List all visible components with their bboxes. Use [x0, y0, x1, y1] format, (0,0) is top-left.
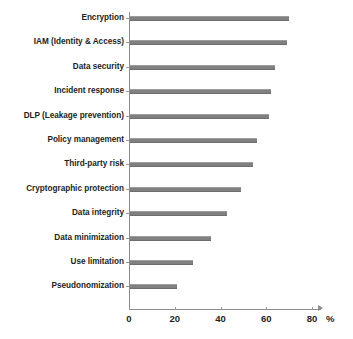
- x-tick-label: 40: [201, 313, 241, 324]
- x-tick-mark: [266, 307, 267, 310]
- x-tick-mark: [312, 307, 313, 310]
- x-tick-label: 0: [109, 313, 149, 324]
- x-tick-label: 60: [246, 313, 286, 324]
- x-tick-mark: [129, 307, 130, 310]
- x-tick-label: 20: [155, 313, 195, 324]
- plot-area: EncryptionIAM (Identity & Access)Data se…: [0, 0, 353, 339]
- bar-chart-figure: EncryptionIAM (Identity & Access)Data se…: [0, 0, 353, 339]
- x-axis-ticks: 020406080: [0, 0, 353, 339]
- x-tick-mark: [221, 307, 222, 310]
- x-tick-mark: [175, 307, 176, 310]
- x-axis-unit-label: %: [326, 313, 334, 324]
